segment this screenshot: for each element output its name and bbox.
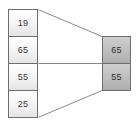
target-array: 65 55 bbox=[102, 36, 131, 91]
source-array: 19 65 55 25 bbox=[8, 9, 38, 118]
bottom-connector-line bbox=[38, 91, 102, 118]
target-cell-0: 65 bbox=[103, 37, 130, 63]
top-connector-line bbox=[38, 10, 102, 37]
diagram-canvas: 19 65 55 25 65 55 bbox=[0, 0, 137, 126]
source-cell-0: 19 bbox=[9, 10, 37, 36]
target-cell-1: 55 bbox=[103, 63, 130, 90]
source-cell-1: 65 bbox=[9, 36, 37, 63]
source-cell-3: 25 bbox=[9, 90, 37, 117]
source-cell-2: 55 bbox=[9, 63, 37, 90]
